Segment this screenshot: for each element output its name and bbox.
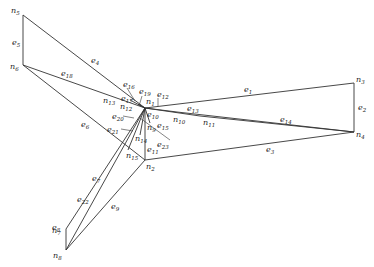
edge-label-e16: e16 bbox=[123, 80, 135, 90]
node-labels-layer: n1n2n3n4n5n6n7n8n9n10n11n12n13n14n15 bbox=[10, 6, 365, 261]
node-label-n15: n15 bbox=[126, 151, 139, 161]
edge-e9 bbox=[66, 160, 145, 250]
edge-label-e4: e4 bbox=[91, 56, 100, 66]
edge-e14 bbox=[200, 116, 354, 132]
node-label-n10: n10 bbox=[173, 115, 186, 125]
node-label-n5: n5 bbox=[11, 6, 20, 16]
edge-label-e20: e20 bbox=[112, 112, 124, 122]
edge-e3 bbox=[145, 132, 354, 160]
node-label-n6: n6 bbox=[10, 62, 19, 72]
edge-label-e18: e18 bbox=[61, 69, 73, 79]
edge-label-e19: e19 bbox=[139, 87, 151, 97]
edge-labels-layer: e1e2e3e4e5e6e7e8e9e10e11e12e13e14e15e16e… bbox=[12, 38, 367, 233]
edge-label-e23: e23 bbox=[157, 140, 169, 150]
edge-e20 bbox=[123, 116, 134, 118]
edge-label-e6: e6 bbox=[81, 120, 90, 130]
node-label-n4: n4 bbox=[356, 130, 365, 140]
edge-e7 bbox=[66, 108, 145, 229]
edges-layer bbox=[23, 15, 354, 250]
node-label-n13: n13 bbox=[103, 96, 116, 106]
graph-diagram: e1e2e3e4e5e6e7e8e9e10e11e12e13e14e15e16e… bbox=[0, 0, 374, 267]
edge-e4 bbox=[23, 15, 145, 108]
edge-label-e1: e1 bbox=[244, 85, 252, 95]
edge-label-e2: e2 bbox=[358, 103, 367, 113]
edge-label-e5: e5 bbox=[12, 38, 21, 48]
edge-label-e13: e13 bbox=[187, 104, 199, 114]
edge-label-e3: e3 bbox=[266, 145, 275, 155]
edge-label-e21: e21 bbox=[107, 125, 119, 135]
node-label-n11: n11 bbox=[203, 118, 215, 128]
edge-label-e15: e15 bbox=[157, 121, 169, 131]
edge-label-e9: e9 bbox=[111, 202, 120, 212]
edge-e1 bbox=[145, 83, 354, 108]
node-label-n1: n1 bbox=[146, 97, 155, 107]
edge-label-e7: e7 bbox=[92, 174, 101, 184]
node-label-n2: n2 bbox=[146, 162, 155, 172]
node-label-n3: n3 bbox=[356, 75, 365, 85]
node-label-n8: n8 bbox=[53, 251, 62, 261]
node-label-n9: n9 bbox=[147, 123, 156, 133]
edge-label-e14: e14 bbox=[280, 115, 292, 125]
node-label-n14: n14 bbox=[135, 134, 148, 144]
edge-label-e10: e10 bbox=[147, 110, 159, 120]
edge-label-e12: e12 bbox=[157, 90, 169, 100]
